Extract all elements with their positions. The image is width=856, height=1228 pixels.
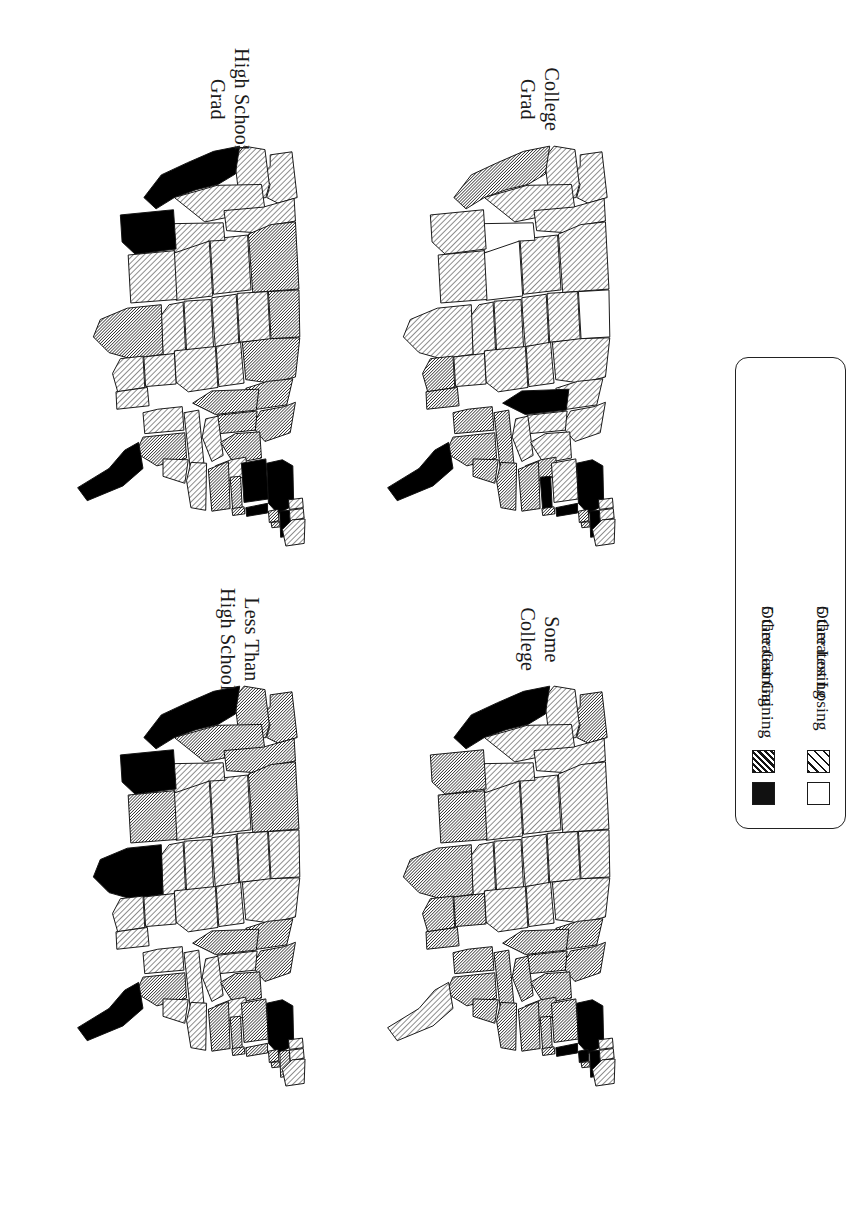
map-state-ks [494, 299, 524, 350]
map-state-az [120, 750, 176, 794]
map-state-nc [497, 1002, 517, 1050]
map-state-ia [216, 342, 244, 386]
map-state-sd [237, 292, 270, 343]
map-state-md [230, 1016, 242, 1050]
map-state-il [503, 389, 569, 414]
map-state-ri [581, 1062, 590, 1068]
map-state-mn [552, 338, 609, 383]
map-state-nc [497, 462, 517, 510]
map-state-md [540, 476, 552, 510]
map-state-mt [558, 762, 609, 833]
map-state-la [113, 896, 145, 932]
map-state-vt [598, 498, 613, 509]
map-state-ms [426, 387, 459, 409]
map-state-sd [547, 832, 580, 883]
map-state-mt [248, 762, 299, 833]
map-state-nj [556, 503, 578, 516]
map-state-wy [520, 775, 561, 834]
map-state-az [120, 210, 176, 254]
map-state-al [453, 947, 494, 974]
map-svg-less-than-high-school [20, 670, 320, 1110]
map-state-ri [271, 1062, 280, 1068]
map-state-ri [271, 522, 280, 528]
map-state-ri [581, 522, 590, 528]
map-state-mo [484, 887, 528, 932]
map-state-ne [212, 294, 239, 346]
map-state-vt [288, 498, 303, 509]
map-state-fl [78, 442, 143, 500]
map-state-ks [184, 839, 214, 890]
map-state-sc [163, 459, 188, 483]
map-svg-some-college [330, 670, 630, 1110]
map-state-pa [241, 999, 268, 1043]
map-state-nm [128, 251, 177, 303]
map-state-mn [242, 338, 299, 383]
map-state-ct [268, 1049, 278, 1062]
map-state-ct [578, 509, 588, 522]
legend-label-other-losing: Other Losing [812, 606, 833, 699]
map-state-mo [484, 347, 528, 392]
panel-some-college: Some College [330, 670, 630, 1110]
map-state-md [540, 1016, 552, 1050]
map-state-mn [552, 878, 609, 923]
map-state-va [208, 1002, 230, 1052]
map-state-nc [187, 462, 207, 510]
map-state-ks [494, 839, 524, 890]
map-state-nj [246, 503, 268, 516]
map-state-ar [454, 893, 486, 926]
map-state-de [232, 1047, 245, 1056]
map-state-ia [526, 882, 554, 926]
map-state-nm [438, 791, 487, 843]
map-state-tx [403, 305, 473, 359]
map-state-in [217, 411, 257, 434]
map-svg-college-grad [330, 130, 630, 570]
map-state-nc [187, 1002, 207, 1050]
map-state-ia [216, 882, 244, 926]
map-state-mt [558, 222, 609, 293]
map-less-than-high-school [20, 670, 320, 1110]
map-state-ct [578, 1049, 588, 1062]
map-state-ne [212, 834, 239, 886]
figure-canvas: High School Grad College Grad Less Than … [0, 0, 856, 1228]
map-state-wy [210, 235, 251, 294]
map-state-fl [388, 982, 453, 1040]
map-state-md [230, 476, 242, 510]
map-state-nd [268, 290, 299, 339]
map-state-tx [403, 845, 473, 899]
legend-swatch-5-greatest-losing [807, 782, 830, 805]
map-state-de [542, 507, 555, 516]
panel-label-less-than-high-school: Less Than High School [216, 549, 265, 729]
map-state-nd [268, 830, 299, 879]
map-state-pa [241, 459, 268, 503]
map-state-ms [426, 927, 459, 949]
map-state-ok [471, 302, 495, 355]
map-state-il [503, 929, 569, 954]
legend-label-other-gaining: Other Gaining [757, 606, 778, 707]
map-state-tx [93, 305, 163, 359]
map-state-ok [161, 842, 185, 895]
map-state-sc [473, 999, 498, 1023]
map-state-vt [598, 1038, 613, 1049]
map-high-school-grad [20, 130, 320, 570]
map-college-grad [330, 130, 630, 570]
map-state-al [143, 947, 184, 974]
map-state-tx [93, 845, 163, 899]
legend-swatch-other-gaining [752, 750, 775, 773]
panel-label-some-college: Some College [516, 559, 565, 719]
panel-less-than-high-school: Less Than High School [20, 670, 320, 1110]
map-state-mt [248, 222, 299, 293]
map-state-pa [551, 999, 578, 1043]
map-state-nd [578, 830, 609, 879]
panel-label-college-grad: College Grad [516, 19, 565, 179]
map-state-sc [163, 999, 188, 1023]
map-state-ms [116, 387, 149, 409]
legend-swatch-other-losing [807, 750, 830, 773]
map-state-in [217, 951, 257, 974]
map-state-nj [556, 1043, 578, 1056]
map-state-al [453, 407, 494, 434]
map-state-ok [161, 302, 185, 355]
map-state-in [527, 411, 567, 434]
map-state-fl [78, 982, 143, 1040]
legend-box: 5 Greatest Gaining Other Gaining 5 Great… [735, 357, 846, 829]
map-state-la [113, 356, 145, 392]
